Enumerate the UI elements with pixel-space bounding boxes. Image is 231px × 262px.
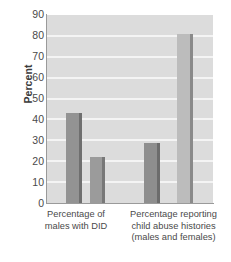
x-axis-line [46, 203, 214, 204]
y-tick-10: 10 [18, 177, 44, 188]
x-label-group-2: Percentage reporting child abuse histori… [121, 209, 226, 244]
bar-shadow-edge [157, 143, 160, 203]
bar-group-1-series-1 [177, 34, 193, 203]
y-tick-20: 20 [18, 156, 44, 167]
bar-group-0-series-0 [66, 113, 82, 203]
x-label-group-1-line-1: Percentage of [30, 209, 122, 221]
y-tick-60: 60 [18, 72, 44, 83]
bar-body [177, 34, 190, 203]
bar-shadow-edge [190, 34, 193, 203]
y-tick-90: 90 [18, 9, 44, 20]
bar-body [90, 157, 102, 203]
y-tick-50: 50 [18, 93, 44, 104]
x-label-group-2-line-1: Percentage reporting [121, 209, 226, 221]
x-label-group-2-line-2: child abuse histories [121, 221, 226, 233]
x-label-group-1: Percentage of males with DID [30, 209, 122, 232]
bar-body [144, 143, 157, 203]
bar-shadow-edge [102, 157, 105, 203]
bar-shadow-edge [79, 113, 82, 203]
x-label-group-1-line-2: males with DID [30, 221, 122, 233]
bar-group-0-series-1 [90, 157, 105, 203]
y-tick-40: 40 [18, 114, 44, 125]
x-label-group-2-line-3: (males and females) [121, 232, 226, 244]
plot-area [47, 15, 213, 203]
bar-chart-figure: Percent 90 80 70 60 50 40 30 20 10 0 Per… [0, 0, 231, 262]
y-tick-70: 70 [18, 51, 44, 62]
bar-group-1-series-0 [144, 143, 160, 203]
x-axis-category-labels: Percentage of males with DID Percentage … [0, 207, 231, 257]
y-tick-80: 80 [18, 30, 44, 41]
bar-body [66, 113, 79, 203]
y-tick-30: 30 [18, 135, 44, 146]
